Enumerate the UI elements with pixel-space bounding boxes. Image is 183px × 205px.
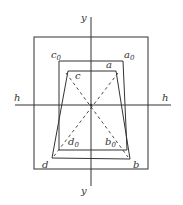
center-point <box>90 104 92 106</box>
label-b: b <box>133 159 139 170</box>
label-h-left: h <box>14 92 20 103</box>
label-h-right: h <box>162 92 168 103</box>
label-c0: c0 <box>51 49 62 62</box>
label-y-top: y <box>80 12 87 23</box>
label-d0: d0 <box>68 136 79 149</box>
label-c: c <box>75 70 81 81</box>
label-d: d <box>42 159 48 170</box>
label-b0: b0 <box>105 136 116 149</box>
label-y-bottom: y <box>80 185 87 196</box>
distortion-diagram: h h y y c0 a0 d0 b0 c a d b <box>0 0 183 205</box>
label-a: a <box>106 59 112 70</box>
label-a0: a0 <box>124 49 135 62</box>
